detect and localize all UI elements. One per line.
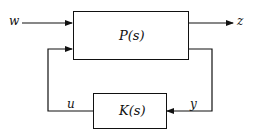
controller-label: K(s)	[119, 104, 146, 117]
w-label: w	[9, 15, 19, 27]
u-label: u	[67, 98, 75, 110]
plant-label: P(s)	[119, 29, 145, 42]
y-label: y	[190, 98, 197, 110]
z-label: z	[237, 15, 243, 27]
